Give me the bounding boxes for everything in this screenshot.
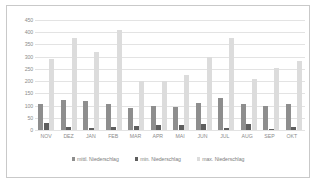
legend-swatch-icon: [72, 157, 75, 160]
bar-group: [35, 20, 58, 130]
y-axis-tick-label: 200: [11, 79, 33, 84]
legend-swatch-icon: [197, 157, 200, 160]
y-axis-tick-label: 450: [11, 18, 33, 23]
bar: [252, 79, 257, 130]
bar-group: [260, 20, 283, 130]
x-axis-tick-label: DEZ: [57, 132, 79, 146]
bar: [111, 127, 116, 130]
y-axis-tick-label: 400: [11, 30, 33, 35]
y-axis: 050100150200250300350400450: [11, 20, 33, 130]
bar-group: [238, 20, 261, 130]
bar: [156, 125, 161, 130]
bar: [229, 38, 234, 130]
x-axis: NOVDEZJANFEBMARAPRMAIJUNJULAUGSEPOKT: [35, 132, 303, 146]
x-axis-tick-label: APR: [147, 132, 169, 146]
bar: [184, 75, 189, 130]
bar: [246, 124, 251, 130]
bar-group: [103, 20, 126, 130]
x-axis-tick-label: SEP: [258, 132, 280, 146]
bar-group: [170, 20, 193, 130]
bar: [128, 108, 133, 130]
bar: [83, 101, 88, 130]
bar: [241, 104, 246, 130]
bar: [162, 81, 167, 130]
bar: [94, 52, 99, 130]
legend-item[interactable]: min. Niederschlag: [135, 156, 181, 162]
y-axis-tick-label: 350: [11, 42, 33, 47]
bar: [218, 98, 223, 130]
bar: [139, 81, 144, 130]
bar: [207, 57, 212, 130]
bar: [151, 106, 156, 130]
bar: [173, 107, 178, 130]
bar: [61, 100, 66, 130]
y-axis-tick-label: 0: [11, 128, 33, 133]
x-axis-tick-label: OKT: [281, 132, 303, 146]
bar: [106, 104, 111, 130]
bar: [196, 103, 201, 130]
bar: [179, 125, 184, 130]
y-axis-tick-label: 100: [11, 103, 33, 108]
x-axis-tick-label: NOV: [35, 132, 57, 146]
y-axis-tick-label: 50: [11, 115, 33, 120]
x-axis-tick-label: AUG: [236, 132, 258, 146]
bar: [297, 61, 302, 130]
bar: [117, 30, 122, 130]
gridline: [35, 130, 305, 131]
x-axis-tick-label: JUN: [191, 132, 213, 146]
y-axis-tick-label: 250: [11, 66, 33, 71]
bar: [38, 104, 43, 130]
bar: [72, 38, 77, 130]
bar: [201, 124, 206, 130]
bar-group: [58, 20, 81, 130]
bar: [66, 127, 71, 130]
legend-item[interactable]: mittl. Niederschlag: [72, 156, 119, 162]
x-axis-tick-label: FEB: [102, 132, 124, 146]
bar-group: [193, 20, 216, 130]
bar: [89, 128, 94, 130]
bar-group: [215, 20, 238, 130]
bar-group: [283, 20, 306, 130]
y-axis-tick-label: 300: [11, 54, 33, 59]
bar: [44, 123, 49, 130]
plot-area: 050100150200250300350400450: [7, 6, 311, 146]
bar: [286, 104, 291, 130]
legend-label: max. Niederschlag: [202, 156, 244, 162]
bars-area: [35, 20, 305, 130]
bar: [269, 129, 274, 130]
y-axis-tick-label: 150: [11, 91, 33, 96]
bar: [49, 59, 54, 130]
legend-swatch-icon: [135, 157, 138, 160]
chart-legend: mittl. Niederschlagmin. Niederschlagmax.…: [7, 156, 309, 162]
bar: [224, 128, 229, 130]
x-axis-tick-label: JAN: [80, 132, 102, 146]
x-axis-tick-label: JUL: [214, 132, 236, 146]
legend-item[interactable]: max. Niederschlag: [197, 156, 245, 162]
bar-group: [80, 20, 103, 130]
legend-label: min. Niederschlag: [140, 156, 181, 162]
bar: [274, 68, 279, 130]
chart-container: 050100150200250300350400450 NOVDEZJANFEB…: [6, 5, 310, 178]
bar-group: [148, 20, 171, 130]
x-axis-tick-label: MAR: [124, 132, 146, 146]
bar: [291, 127, 296, 130]
bar: [263, 106, 268, 130]
bar-group: [125, 20, 148, 130]
bar: [134, 126, 139, 130]
x-axis-tick-label: MAI: [169, 132, 191, 146]
legend-label: mittl. Niederschlag: [77, 156, 119, 162]
